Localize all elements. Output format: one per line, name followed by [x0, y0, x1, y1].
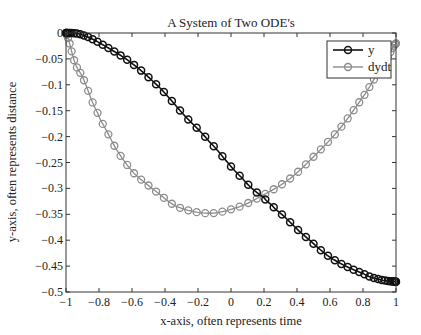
ode-line-chart: A System of Two ODE's −1−0.8−0.6−0.4−0.2… [0, 0, 421, 335]
x-tick-label: 0.4 [290, 295, 305, 309]
y-tick-label: −0.05 [35, 52, 63, 66]
legend: y dydt [327, 41, 392, 78]
x-tick-label: 1 [393, 295, 399, 309]
y-tick-label: −0.45 [35, 259, 63, 273]
x-tick-label: −0.6 [121, 295, 143, 309]
y-tick-label: −0.4 [41, 233, 63, 247]
x-axis-label: x-axis, often represents time [160, 314, 302, 328]
y-tick-label: −0.1 [41, 78, 63, 92]
x-tick-label: −0.4 [154, 295, 176, 309]
y-tick-label: 0 [57, 26, 63, 40]
y-tick-label: −0.15 [35, 104, 63, 118]
y-tick-label: −0.25 [35, 156, 63, 170]
x-tick-label: 0.8 [356, 295, 371, 309]
y-tick-label: −0.2 [41, 130, 63, 144]
y-tick-label: −0.5 [41, 285, 63, 299]
chart-title: A System of Two ODE's [167, 15, 295, 30]
x-tick-label: 0 [228, 295, 234, 309]
legend-label-dydt: dydt [368, 59, 392, 74]
y-tick-label: −0.3 [41, 181, 63, 195]
y-tick-label: −0.35 [35, 207, 63, 221]
y-axis-label: y-axis, often represents distance [5, 81, 19, 242]
x-tick-label: −0.8 [88, 295, 110, 309]
legend-label-y: y [368, 42, 375, 57]
x-tick-label: −0.2 [187, 295, 209, 309]
x-tick-label: 0.2 [257, 295, 272, 309]
x-tick-label: 0.6 [323, 295, 338, 309]
